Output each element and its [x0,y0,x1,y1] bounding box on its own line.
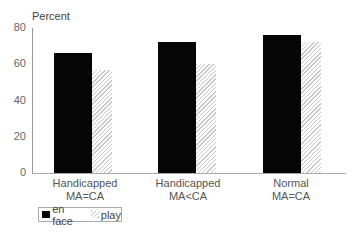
legend-swatch-play [91,211,99,218]
legend-label-play: play [101,209,121,221]
y-tick-80: 80 [0,21,26,33]
legend: en face play [38,207,122,222]
bar-enface-1 [54,53,92,173]
x-category-2: Handicapped MA<CA [138,177,238,203]
x-category-3: Normal MA=CA [241,177,341,203]
y-tick-60: 60 [0,57,26,69]
bar-enface-3 [263,35,301,173]
x-category-1-line2: MA=CA [35,190,135,203]
x-category-1: Handicapped MA=CA [35,177,135,203]
y-axis-label: Percent [32,10,70,22]
legend-swatch-en-face [42,211,50,218]
y-tick-20: 20 [0,130,26,142]
bar-play-3 [301,42,321,173]
y-tick-40: 40 [0,94,26,106]
legend-label-en-face: en face [52,203,85,227]
x-category-2-line2: MA<CA [138,190,238,203]
bar-play-1 [92,70,112,173]
x-category-3-line1: Normal [241,177,341,190]
bar-chart: Percent 80 60 40 20 0 Handicapped MA=CA … [0,0,358,235]
y-tick-0: 0 [0,166,26,178]
x-category-1-line1: Handicapped [35,177,135,190]
x-category-2-line1: Handicapped [138,177,238,190]
x-axis [32,173,346,174]
y-axis [32,28,33,174]
x-category-3-line2: MA=CA [241,190,341,203]
bar-play-2 [196,64,216,173]
bar-enface-2 [158,42,196,173]
